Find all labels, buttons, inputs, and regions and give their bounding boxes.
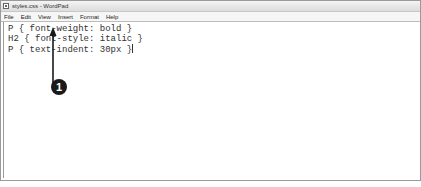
code-line: H2 { font-style: italic } (8, 34, 414, 44)
menu-file[interactable]: File (4, 14, 14, 20)
code-line-text: P { text-indent: 30px } (8, 45, 132, 55)
menu-format[interactable]: Format (80, 14, 99, 20)
menu-view[interactable]: View (38, 14, 51, 20)
menu-bar: File Edit View Insert Format Help (1, 12, 420, 22)
menu-edit[interactable]: Edit (21, 14, 31, 20)
menu-insert[interactable]: Insert (58, 14, 73, 20)
menu-help[interactable]: Help (106, 14, 118, 20)
text-caret (132, 44, 133, 53)
callout-number: 1 (56, 81, 62, 93)
window-title: styles.css - WordPad (12, 3, 68, 9)
code-line: P { text-indent: 30px } (8, 44, 414, 55)
title-bar: styles.css - WordPad (1, 1, 420, 12)
code-line: P { font-weight: bold } (8, 24, 414, 34)
app-icon[interactable] (3, 3, 9, 9)
callout-arrow-icon: 1 (47, 27, 67, 97)
